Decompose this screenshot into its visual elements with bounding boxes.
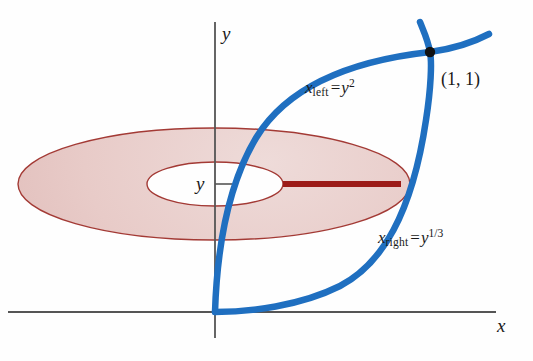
intersection-point-label: (1, 1) — [441, 70, 480, 88]
left-curve-label-sub: left — [313, 86, 329, 99]
right-curve-label-eq: = — [410, 228, 420, 247]
right-curve-label: xright=y1/3 — [378, 228, 443, 248]
intersection-point-marker — [425, 47, 435, 57]
left-curve-label-eq: = — [331, 78, 341, 97]
left-curve-label-var: x — [305, 78, 313, 97]
right-curve-label-exp: 1/3 — [429, 227, 444, 240]
diagram-canvas — [0, 0, 533, 361]
y-axis-label: y — [222, 24, 230, 43]
left-curve-label-exp: 2 — [349, 77, 355, 90]
right-curve-label-var: x — [378, 228, 386, 247]
washer-method-figure: y x y xleft=y2 xright=y1/3 (1, 1) — [0, 0, 533, 361]
x-axis-label: x — [497, 316, 505, 335]
left-curve-label: xleft=y2 — [305, 78, 355, 98]
y-tick-label: y — [196, 174, 204, 193]
right-curve-label-sub: right — [386, 236, 409, 249]
right-curve-label-rhs: y — [421, 228, 429, 247]
left-curve-label-rhs: y — [341, 78, 349, 97]
